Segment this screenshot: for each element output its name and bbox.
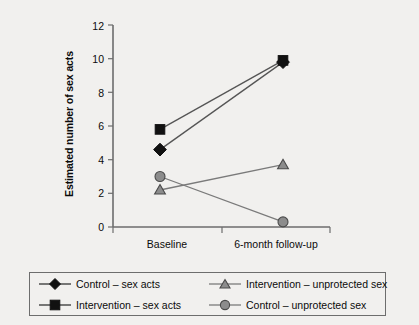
legend-label-control-unprotected: Control – unprotected sex [246,299,366,311]
y-tick-label-0: 0 [98,221,104,233]
x-tick-label-followup: 6-month follow-up [234,238,318,250]
legend-item-control-unprotected: Control – unprotected sex [208,298,387,312]
figure: Estimated number of sex acts 0 2 4 6 8 1… [0,0,419,325]
series-line-control-sex-acts [160,62,283,150]
square-icon [38,298,72,312]
legend-label-intervention-sex-acts: Intervention – sex acts [76,299,181,311]
chart-legend: Control – sex acts Intervention – unprot… [29,272,386,316]
x-tick-label-baseline: Baseline [147,238,187,250]
series-line-intervention-unprotected [160,165,283,190]
diamond-icon [38,277,72,291]
y-tick-label-8: 8 [98,87,104,99]
y-tick-label-10: 10 [92,53,104,65]
line-chart-svg: 0 2 4 6 8 10 12 [0,0,419,268]
circle-icon [208,298,242,312]
marker-control-sex-acts-baseline [154,143,167,156]
marker-intervention-unprotected-followup [278,159,289,168]
series-line-control-unprotected [160,177,283,222]
y-tick-label-4: 4 [98,154,104,166]
legend-item-intervention-unprotected: Intervention – unprotected sex [208,277,387,291]
series-line-intervention-sex-acts [160,60,283,129]
legend-label-intervention-unprotected: Intervention – unprotected sex [246,278,387,290]
legend-item-control-sex-acts: Control – sex acts [38,277,208,291]
triangle-icon [208,277,242,291]
legend-label-control-sex-acts: Control – sex acts [76,278,160,290]
marker-control-unprotected-followup [278,217,288,227]
marker-intervention-sex-acts-baseline [155,125,165,135]
y-tick-label-2: 2 [98,187,104,199]
legend-item-intervention-sex-acts: Intervention – sex acts [38,298,208,312]
plot-area: Estimated number of sex acts 0 2 4 6 8 1… [0,0,419,268]
y-tick-label-6: 6 [98,120,104,132]
y-tick-label-12: 12 [92,20,104,32]
marker-control-unprotected-baseline [155,172,165,182]
